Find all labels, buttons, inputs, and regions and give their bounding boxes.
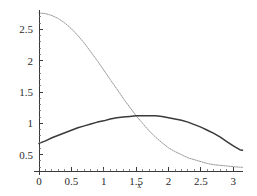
x-tick-label-1: 0.5	[65, 175, 79, 187]
y-tick-label-4: 2.5	[19, 23, 33, 35]
y-tick-label-3: 2	[28, 55, 34, 67]
x-tick-label-2: 1	[101, 175, 107, 187]
y-tick-label-1: 1	[28, 117, 34, 129]
x-tick-label-6: 3	[231, 175, 237, 187]
x-tick-label-0: 0	[36, 175, 42, 187]
x-tick-label-4: 2	[166, 175, 172, 187]
y-tick-label-0: 0.5	[19, 149, 33, 161]
x-tick-label-5: 2.5	[194, 175, 208, 187]
y-tick-label-2: 1.5	[19, 86, 33, 98]
line-chart: 0 0.5 1 1.5 2 2.5 3 0.5 1 1.5 2 2.5 x	[0, 0, 257, 196]
chart-figure: 0 0.5 1 1.5 2 2.5 3 0.5 1 1.5 2 2.5 x	[0, 0, 257, 196]
x-axis-title: x	[137, 181, 141, 190]
